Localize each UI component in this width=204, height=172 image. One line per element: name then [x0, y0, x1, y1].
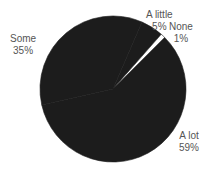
label-a-lot-pct: 59% [179, 142, 199, 154]
label-none: None 1% [169, 21, 193, 45]
label-some-pct: 35% [10, 45, 36, 57]
pie-chart: Some 35% A little 5% None 1% A lot 59% [0, 0, 204, 172]
label-a-lot-name: A lot [179, 130, 199, 142]
label-a-little-name: A little [146, 9, 173, 21]
label-a-lot: A lot 59% [179, 130, 199, 154]
label-none-name: None [169, 21, 193, 33]
label-none-pct: 1% [169, 33, 193, 45]
label-some-name: Some [10, 33, 36, 45]
label-some: Some 35% [10, 33, 36, 57]
